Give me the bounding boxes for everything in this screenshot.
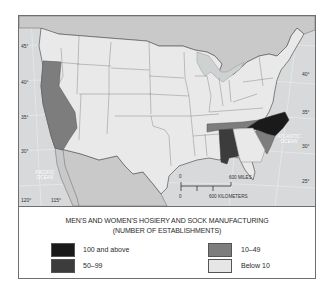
- scale-miles-label: 600 MILES: [229, 176, 252, 181]
- map-subtitle: (NUMBER OF ESTABLISHMENTS): [19, 226, 315, 236]
- legend-swatch-10-49: [208, 243, 232, 257]
- legend-label-below-10: Below 10: [241, 261, 270, 271]
- scale-zero-miles: 0: [179, 175, 182, 180]
- lon-label-115: 115°: [51, 198, 61, 203]
- legend-swatch-50-99: [51, 259, 75, 273]
- legend-swatch-100-plus: [51, 243, 75, 257]
- legend-label-10-49: 10–49: [241, 245, 260, 255]
- lat-label-30: 30°: [21, 149, 29, 154]
- scale-zero-km: 0: [179, 195, 182, 200]
- legend-label-100-plus: 100 and above: [83, 245, 129, 255]
- lat-label-right-25: 25°: [302, 179, 310, 184]
- lat-label-right-40: 40°: [302, 72, 310, 77]
- map-title: MEN'S AND WOMEN'S HOSIERY AND SOCK MANUF…: [19, 216, 315, 226]
- legend: MEN'S AND WOMEN'S HOSIERY AND SOCK MANUF…: [19, 207, 315, 278]
- lat-label-45: 45°: [21, 44, 29, 49]
- lat-label-35: 35°: [21, 115, 29, 120]
- legend-swatch-below-10: [208, 259, 232, 273]
- us-map: 45° 40° 35° 30° 40° 35° 30° 25° 120° 115…: [19, 16, 315, 207]
- scale-km-label: 600 KILOMETERS: [209, 195, 248, 200]
- lat-label-right-35: 35°: [302, 110, 310, 115]
- map-figure: 45° 40° 35° 30° 40° 35° 30° 25° 120° 115…: [18, 15, 316, 279]
- legend-label-50-99: 50–99: [83, 261, 102, 271]
- pacific-ocean-label: PACIFIC OCEAN: [25, 171, 65, 181]
- atlantic-ocean-label: ATLANTIC OCEAN: [271, 135, 307, 145]
- legend-title: MEN'S AND WOMEN'S HOSIERY AND SOCK MANUF…: [19, 216, 315, 236]
- lat-label-40: 40°: [21, 80, 29, 85]
- lon-label-120: 120°: [21, 198, 31, 203]
